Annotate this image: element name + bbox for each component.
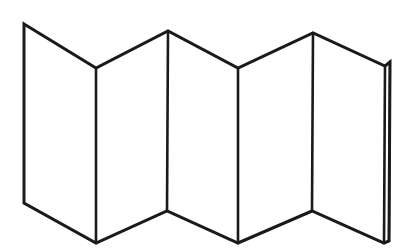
- panel-4-face: [238, 33, 313, 243]
- sliver-right-edge: [389, 62, 390, 241]
- crease-peak-2: [312, 33, 313, 211]
- figure-stage: Accordion-folded panel screen Line drawi…: [0, 0, 413, 249]
- crease-valley-3: [384, 66, 385, 243]
- accordion-fold-drawing: Accordion-folded panel screen Line drawi…: [0, 0, 413, 249]
- panel-5-face: [312, 33, 385, 243]
- crease-peak-1: [167, 31, 168, 211]
